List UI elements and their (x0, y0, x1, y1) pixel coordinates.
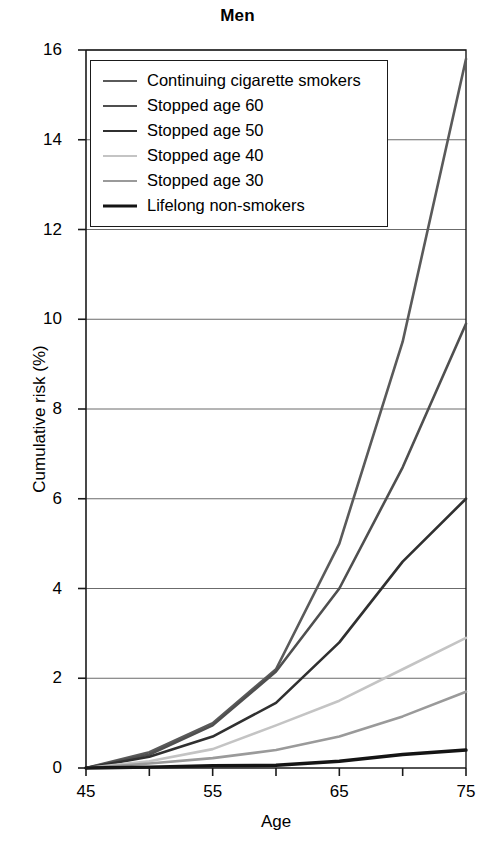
legend-line-icon (103, 76, 137, 86)
legend-line-icon (103, 201, 137, 211)
legend-item-label: Stopped age 30 (147, 171, 264, 190)
legend-item: Stopped age 40 (91, 143, 387, 168)
legend-item-label: Stopped age 50 (147, 121, 264, 140)
legend-item: Lifelong non-smokers (91, 193, 387, 218)
legend-item-label: Stopped age 40 (147, 146, 264, 165)
legend-item: Continuing cigarette smokers (91, 68, 387, 93)
legend-item-label: Lifelong non-smokers (147, 196, 305, 215)
legend-item: Stopped age 60 (91, 93, 387, 118)
chart-legend: Continuing cigarette smokersStopped age … (90, 60, 388, 227)
x-tick-label: 65 (309, 783, 369, 801)
legend-item: Stopped age 30 (91, 168, 387, 193)
legend-item-label: Stopped age 60 (147, 96, 264, 115)
series-line-3 (86, 499, 466, 768)
x-tick-label: 75 (436, 783, 480, 801)
legend-line-icon (103, 151, 137, 161)
legend-item: Stopped age 50 (91, 118, 387, 143)
x-tick-label: 45 (56, 783, 116, 801)
legend-line-icon (103, 176, 137, 186)
x-axis-tick-labels: 45556575 (0, 783, 475, 811)
x-axis-title: Age (85, 812, 467, 832)
legend-item-label: Continuing cigarette smokers (147, 71, 361, 90)
legend-line-icon (103, 126, 137, 136)
x-tick-label: 55 (183, 783, 243, 801)
legend-line-icon (103, 101, 137, 111)
